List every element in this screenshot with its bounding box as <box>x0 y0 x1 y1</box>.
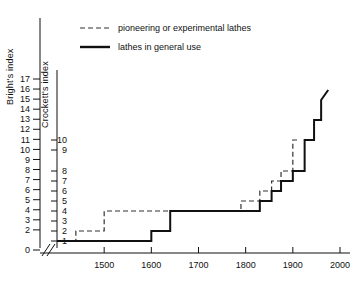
y-tick-label-crockett: 10 <box>57 135 67 145</box>
axes-lines <box>40 18 350 256</box>
y-tick-label-crockett: 4 <box>62 206 67 216</box>
chart-container: Bright's index Crockett's index pioneeri… <box>0 0 356 285</box>
y-tick-label-bright: 10 <box>20 145 30 155</box>
y-ticks-bright: 0234567891011121314151617 <box>20 74 40 255</box>
y-axis-title-crockett: Crockett's index <box>40 61 50 128</box>
x-ticks: 150016001700180019002000 <box>94 247 350 270</box>
step-chart: Bright's index Crockett's index pioneeri… <box>0 0 356 285</box>
series-pioneering-lathes <box>57 140 300 241</box>
y-tick-label-bright: 5 <box>25 195 30 205</box>
y-tick-label-crockett: 6 <box>62 186 67 196</box>
x-tick-label: 1800 <box>236 260 256 270</box>
series-lathes-general-use <box>57 90 328 241</box>
x-tick-label: 1600 <box>141 260 161 270</box>
y-tick-label-bright: 11 <box>21 135 30 145</box>
y-tick-label-bright: 6 <box>25 185 30 195</box>
legend-label-pioneering: pioneering or experimental lathes <box>118 23 252 33</box>
y-tick-label-crockett: 9 <box>62 145 67 155</box>
y-tick-label-crockett: 5 <box>62 196 67 206</box>
y-tick-label-bright: 14 <box>20 104 30 114</box>
x-tick-label: 2000 <box>330 260 350 270</box>
y-tick-label-bright: 0 <box>25 245 30 255</box>
y-tick-label-bright: 2 <box>25 225 30 235</box>
y-tick-label-bright: 13 <box>20 114 30 124</box>
y-tick-label-bright: 3 <box>25 215 30 225</box>
y-tick-label-bright: 4 <box>25 205 30 215</box>
x-tick-label: 1900 <box>283 260 303 270</box>
x-tick-label: 1700 <box>188 260 208 270</box>
chart-legend: pioneering or experimental lathes lathes… <box>80 23 252 52</box>
y-tick-label-crockett: 3 <box>62 216 67 226</box>
y-tick-label-bright: 15 <box>20 94 30 104</box>
y-tick-label-crockett: 8 <box>62 166 67 176</box>
x-tick-label: 1500 <box>94 260 114 270</box>
y-ticks-crockett: 12345678910 <box>51 135 67 246</box>
y-tick-label-crockett: 7 <box>62 176 67 186</box>
y-tick-label-crockett: 2 <box>62 226 67 236</box>
legend-label-general-use: lathes in general use <box>118 42 201 52</box>
y-tick-label-bright: 7 <box>25 175 30 185</box>
y-tick-label-bright: 8 <box>25 165 30 175</box>
y-tick-label-bright: 12 <box>20 124 30 134</box>
y-axis-title-bright: Bright's index <box>5 48 15 105</box>
y-tick-label-bright: 16 <box>20 84 30 94</box>
y-tick-label-bright: 9 <box>25 155 30 165</box>
y-tick-label-bright: 17 <box>20 74 30 84</box>
